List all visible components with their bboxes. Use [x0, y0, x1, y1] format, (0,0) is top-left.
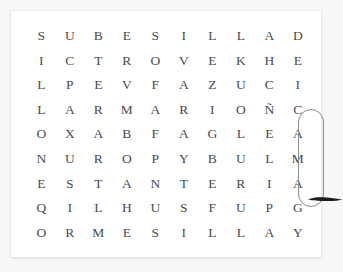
grid-cell[interactable]: P: [56, 73, 85, 98]
grid-cell[interactable]: A: [141, 98, 170, 123]
grid-cell[interactable]: I: [170, 221, 199, 246]
grid-cell[interactable]: E: [113, 24, 142, 49]
grid-cell-found[interactable]: M: [284, 147, 313, 172]
grid-cell[interactable]: Y: [170, 147, 199, 172]
grid-row: Q I L H U S F U P G: [27, 196, 312, 221]
grid-row: I C T R O V E K H E: [27, 49, 312, 74]
grid-cell[interactable]: O: [113, 147, 142, 172]
grid-cell[interactable]: I: [198, 98, 227, 123]
grid-cell[interactable]: B: [113, 122, 142, 147]
grid-row: E S T A N T E R I A: [27, 172, 312, 197]
grid-cell[interactable]: P: [255, 196, 284, 221]
grid-cell[interactable]: E: [255, 122, 284, 147]
grid-cell[interactable]: R: [56, 221, 85, 246]
grid-cell[interactable]: E: [284, 49, 313, 74]
grid-cell[interactable]: S: [56, 172, 85, 197]
grid-cell[interactable]: M: [84, 221, 113, 246]
grid-cell[interactable]: V: [113, 73, 142, 98]
grid-cell-found[interactable]: A: [284, 172, 313, 197]
grid-cell[interactable]: L: [27, 98, 56, 123]
grid-cell[interactable]: L: [255, 147, 284, 172]
grid-cell[interactable]: I: [27, 49, 56, 74]
grid-cell[interactable]: D: [284, 24, 313, 49]
grid-cell[interactable]: R: [84, 98, 113, 123]
grid-cell[interactable]: N: [141, 172, 170, 197]
grid-cell[interactable]: O: [141, 49, 170, 74]
grid-cell[interactable]: L: [227, 122, 256, 147]
grid-cell[interactable]: G: [284, 196, 313, 221]
grid-cell[interactable]: U: [227, 73, 256, 98]
grid-cell[interactable]: E: [198, 49, 227, 74]
grid-cell[interactable]: F: [141, 73, 170, 98]
grid-cell[interactable]: R: [113, 49, 142, 74]
grid-cell[interactable]: Z: [198, 73, 227, 98]
grid-cell[interactable]: E: [113, 221, 142, 246]
grid-cell[interactable]: L: [27, 73, 56, 98]
grid-cell[interactable]: T: [84, 172, 113, 197]
grid-cell[interactable]: E: [84, 73, 113, 98]
grid-cell[interactable]: S: [141, 24, 170, 49]
grid-cell[interactable]: M: [113, 98, 142, 123]
grid-cell[interactable]: A: [56, 98, 85, 123]
grid-cell[interactable]: V: [170, 49, 199, 74]
grid-cell[interactable]: Y: [284, 221, 313, 246]
grid-cell[interactable]: R: [84, 147, 113, 172]
grid-cell[interactable]: L: [227, 221, 256, 246]
grid-cell[interactable]: F: [141, 122, 170, 147]
grid-cell[interactable]: O: [27, 221, 56, 246]
grid-cell[interactable]: E: [27, 172, 56, 197]
grid-cell[interactable]: K: [227, 49, 256, 74]
grid-cell[interactable]: A: [113, 172, 142, 197]
word-search-grid-container[interactable]: S U B E S I L L A D I C T R O V: [11, 11, 321, 257]
grid-cell[interactable]: I: [56, 196, 85, 221]
grid-cell[interactable]: C: [56, 49, 85, 74]
drag-stroke-marker: [307, 196, 343, 202]
grid-cell-found[interactable]: A: [284, 122, 313, 147]
grid-cell[interactable]: G: [198, 122, 227, 147]
grid-cell[interactable]: U: [56, 24, 85, 49]
grid-row: N U R O P Y B U L M: [27, 147, 312, 172]
grid-cell[interactable]: Q: [27, 196, 56, 221]
grid-cell[interactable]: A: [170, 122, 199, 147]
grid-cell[interactable]: T: [84, 49, 113, 74]
grid-cell[interactable]: O: [227, 98, 256, 123]
grid-cell[interactable]: I: [170, 24, 199, 49]
grid-cell[interactable]: C: [255, 73, 284, 98]
grid-cell[interactable]: R: [170, 98, 199, 123]
grid-cell[interactable]: O: [27, 122, 56, 147]
grid-cell[interactable]: I: [255, 172, 284, 197]
grid-cell[interactable]: B: [198, 147, 227, 172]
grid-cell[interactable]: X: [56, 122, 85, 147]
grid-cell[interactable]: F: [198, 196, 227, 221]
grid-row: L P E V F A Z U C I: [27, 73, 312, 98]
grid-cell[interactable]: R: [227, 172, 256, 197]
grid-cell[interactable]: U: [227, 196, 256, 221]
grid-cell[interactable]: L: [227, 24, 256, 49]
grid-row: S U B E S I L L A D: [27, 24, 312, 49]
grid-cell[interactable]: A: [255, 24, 284, 49]
grid-cell[interactable]: U: [56, 147, 85, 172]
grid-cell[interactable]: T: [170, 172, 199, 197]
grid-cell[interactable]: Ñ: [255, 98, 284, 123]
grid-cell[interactable]: A: [170, 73, 199, 98]
grid-cell[interactable]: N: [27, 147, 56, 172]
grid-cell[interactable]: L: [198, 24, 227, 49]
grid-cell[interactable]: H: [113, 196, 142, 221]
grid-cell[interactable]: S: [141, 221, 170, 246]
grid-cell-found[interactable]: C: [284, 98, 313, 123]
grid-cell[interactable]: A: [84, 122, 113, 147]
grid-cell[interactable]: S: [27, 24, 56, 49]
grid-cell[interactable]: P: [141, 147, 170, 172]
grid-cell[interactable]: A: [255, 221, 284, 246]
grid-cell[interactable]: S: [170, 196, 199, 221]
puzzle-card: S U B E S I L L A D I C T R O V: [11, 11, 321, 257]
grid-cell[interactable]: U: [227, 147, 256, 172]
grid-cell[interactable]: H: [255, 49, 284, 74]
grid-cell[interactable]: L: [84, 196, 113, 221]
grid-cell[interactable]: U: [141, 196, 170, 221]
word-search-grid[interactable]: S U B E S I L L A D I C T R O V: [27, 24, 312, 245]
grid-cell[interactable]: B: [84, 24, 113, 49]
grid-cell[interactable]: I: [284, 73, 313, 98]
grid-cell[interactable]: E: [198, 172, 227, 197]
grid-cell[interactable]: L: [198, 221, 227, 246]
